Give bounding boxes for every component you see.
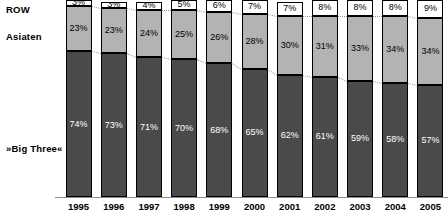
segment-value-label: 74% <box>70 120 88 129</box>
segment-asiaten: 24% <box>136 10 162 57</box>
bar-column: 65%28%7% <box>242 0 268 197</box>
x-tick-label: 2002 <box>307 201 342 212</box>
bar-column: 71%24%4% <box>136 0 162 197</box>
segment-value-label: 26% <box>210 33 228 42</box>
bar-column: 70%25%5% <box>171 0 197 197</box>
segment-value-label: 9% <box>424 4 437 13</box>
segment-row: 5% <box>171 0 197 10</box>
segment-row: 9% <box>417 0 443 18</box>
segment-row: 3% <box>66 0 92 6</box>
segment-big-three: 59% <box>347 81 373 197</box>
segment-value-label: 34% <box>421 47 439 56</box>
segment-asiaten: 23% <box>66 6 92 51</box>
segment-big-three: 70% <box>171 59 197 197</box>
connector-row-boundary <box>162 10 171 11</box>
segment-value-label: 8% <box>354 3 367 12</box>
connector-asiaten-boundary <box>197 59 207 64</box>
segment-value-label: 68% <box>210 126 228 135</box>
bar-column: 62%30%7% <box>277 0 303 197</box>
connector-asiaten-boundary <box>232 63 242 70</box>
connector-row-boundary <box>303 16 312 17</box>
segment-value-label: 62% <box>281 131 299 140</box>
connector-row-boundary <box>373 16 382 17</box>
segment-asiaten: 23% <box>101 8 127 53</box>
segment-value-label: 65% <box>245 128 263 137</box>
connector-asiaten-boundary <box>91 51 100 54</box>
plot-area: 74%23%3%73%23%3%71%24%4%70%25%5%68%26%6%… <box>61 0 448 197</box>
segment-value-label: 70% <box>175 124 193 133</box>
connector-asiaten-boundary <box>267 69 277 76</box>
segment-row: 8% <box>347 0 373 16</box>
segment-big-three: 62% <box>277 75 303 197</box>
connector-asiaten-boundary <box>337 77 347 82</box>
connector-asiaten-boundary <box>126 53 136 58</box>
segment-asiaten: 34% <box>417 18 443 85</box>
segment-big-three: 61% <box>312 77 338 197</box>
segment-big-three: 73% <box>101 53 127 197</box>
segment-value-label: 3% <box>107 2 120 8</box>
x-tick-label: 2004 <box>378 201 413 212</box>
connector-row-boundary <box>338 16 347 17</box>
segment-asiaten: 33% <box>347 16 373 81</box>
segment-value-label: 59% <box>351 134 369 143</box>
x-tick-label: 1999 <box>202 201 237 212</box>
segment-value-label: 23% <box>70 24 88 33</box>
connector-row-boundary <box>408 16 417 19</box>
connector-asiaten-boundary <box>373 81 382 84</box>
segment-value-label: 31% <box>316 42 334 51</box>
segment-value-label: 57% <box>421 136 439 145</box>
segment-value-label: 6% <box>213 1 226 10</box>
x-tick-label: 2000 <box>237 201 272 212</box>
x-tick-label: 1995 <box>61 201 96 212</box>
bar-column: 68%26%6% <box>206 0 232 197</box>
x-tick-label: 2003 <box>342 201 377 212</box>
connector-row-boundary <box>127 8 136 11</box>
bar-column: 73%23%3% <box>101 0 127 197</box>
segment-asiaten: 34% <box>382 16 408 83</box>
segment-value-label: 34% <box>386 45 404 54</box>
segment-big-three: 68% <box>206 63 232 197</box>
segment-row: 4% <box>136 2 162 10</box>
segment-row: 8% <box>382 0 408 16</box>
series-label-row: ROW <box>6 4 30 15</box>
segment-value-label: 30% <box>281 41 299 50</box>
connector-asiaten-boundary <box>408 83 417 86</box>
x-tick-label: 1996 <box>96 201 131 212</box>
segment-big-three: 58% <box>382 83 408 197</box>
segment-value-label: 7% <box>248 2 261 11</box>
segment-asiaten: 31% <box>312 16 338 77</box>
segment-value-label: 23% <box>105 26 123 35</box>
x-tick-label: 1997 <box>131 201 166 212</box>
series-label-big-three: »Big Three« <box>6 143 63 154</box>
connector-asiaten-boundary <box>302 75 311 78</box>
segment-value-label: 58% <box>386 135 404 144</box>
segment-row: 3% <box>101 2 127 8</box>
bar-column: 61%31%8% <box>312 0 338 197</box>
segment-value-label: 73% <box>105 121 123 130</box>
segment-big-three: 74% <box>66 51 92 197</box>
x-axis-line <box>55 197 448 198</box>
segment-row: 7% <box>277 2 303 16</box>
segment-big-three: 57% <box>417 85 443 197</box>
segment-row: 6% <box>206 0 232 12</box>
segment-row: 7% <box>242 0 268 14</box>
segment-value-label: 8% <box>389 3 402 12</box>
segment-big-three: 65% <box>242 69 268 197</box>
connector-row-boundary <box>232 12 241 15</box>
bar-column: 57%34%9% <box>417 0 443 197</box>
segment-asiaten: 28% <box>242 14 268 69</box>
segment-big-three: 71% <box>136 57 162 197</box>
x-tick-label: 2001 <box>272 201 307 212</box>
segment-value-label: 4% <box>142 2 155 10</box>
segment-value-label: 8% <box>318 3 331 12</box>
connector-row-boundary <box>91 6 100 9</box>
segment-asiaten: 30% <box>277 16 303 75</box>
connector-row-boundary <box>197 10 206 13</box>
segment-value-label: 25% <box>175 30 193 39</box>
segment-value-label: 24% <box>140 29 158 38</box>
stacked-bar-chart: ROW Asiaten »Big Three« 74%23%3%73%23%3%… <box>0 0 448 224</box>
series-label-asiaten: Asiaten <box>6 31 42 42</box>
bar-column: 59%33%8% <box>347 0 373 197</box>
segment-asiaten: 25% <box>171 10 197 59</box>
bar-column: 58%34%8% <box>382 0 408 197</box>
